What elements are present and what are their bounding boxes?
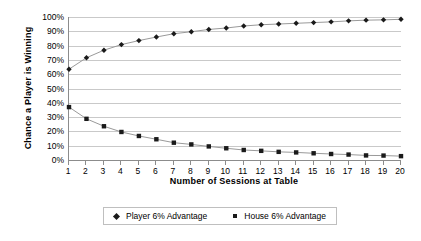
data-point: [293, 21, 298, 26]
data-point: [311, 151, 315, 155]
data-point: [172, 140, 176, 144]
y-axis-tick-label: 100%: [30, 13, 64, 21]
plot-area: [68, 17, 401, 161]
legend-entry[interactable]: House 6% Advantage: [233, 211, 326, 221]
x-axis-tickmark: [348, 161, 349, 165]
y-axis-tick-labels: 100%90%80%70%60%50%40%30%20%10%0%: [30, 17, 64, 160]
x-axis-tick-labels: 1234567891011121314151617181920: [68, 161, 400, 177]
data-point: [206, 27, 211, 32]
data-point: [346, 152, 350, 156]
y-axis-tick-label: 50%: [30, 85, 64, 93]
diamond-marker-icon: [113, 212, 120, 219]
data-point: [363, 17, 368, 22]
data-point: [171, 31, 176, 36]
y-axis-tick-label: 90%: [30, 27, 64, 35]
data-point: [398, 17, 403, 22]
data-point: [66, 66, 71, 71]
x-axis-tickmark: [173, 161, 174, 165]
x-axis-tickmark: [120, 161, 121, 165]
x-axis-tickmark: [190, 161, 191, 165]
y-axis-tick-label: 20%: [30, 127, 64, 135]
series-line: [69, 107, 401, 156]
data-point: [294, 150, 298, 154]
data-point: [276, 150, 280, 154]
x-axis-tickmark: [68, 161, 69, 165]
data-point: [346, 18, 351, 23]
data-point: [364, 153, 368, 157]
x-axis-tickmark: [365, 161, 366, 165]
data-point: [154, 137, 158, 141]
x-axis-tickmark: [243, 161, 244, 165]
legend-entry[interactable]: Player 6% Advantage: [114, 211, 207, 221]
chart-legend: Player 6% AdvantageHouse 6% Advantage: [103, 207, 337, 225]
series-line: [69, 19, 401, 69]
data-point: [381, 153, 385, 157]
data-point: [207, 144, 211, 148]
data-point: [84, 117, 88, 121]
data-point: [102, 124, 106, 128]
data-point: [276, 21, 281, 26]
data-point: [329, 152, 333, 156]
data-point: [84, 55, 89, 60]
x-axis-tickmark: [330, 161, 331, 165]
data-point: [259, 22, 264, 27]
legend-label: House 6% Advantage: [244, 211, 326, 221]
data-point: [259, 149, 263, 153]
data-point: [381, 17, 386, 22]
x-axis-tickmark: [260, 161, 261, 165]
x-axis-tickmark: [155, 161, 156, 165]
plot-svg: [69, 17, 401, 160]
data-point: [101, 47, 106, 52]
x-axis-tickmark: [383, 161, 384, 165]
data-point: [241, 23, 246, 28]
y-axis-tick-label: 70%: [30, 56, 64, 64]
x-axis-tickmark: [278, 161, 279, 165]
y-axis-tick-label: 60%: [30, 70, 64, 78]
data-point: [119, 130, 123, 134]
square-marker-icon: [233, 214, 237, 218]
chart-container: Chance a Player is Winning 100%90%80%70%…: [0, 0, 421, 241]
y-axis-tick-label: 40%: [30, 99, 64, 107]
data-point: [224, 25, 229, 30]
data-point: [154, 34, 159, 39]
data-point: [311, 20, 316, 25]
y-axis-tick-label: 80%: [30, 42, 64, 50]
x-axis-title: Number of Sessions at Table: [68, 176, 400, 186]
x-axis-tickmark: [313, 161, 314, 165]
data-point: [189, 142, 193, 146]
x-axis-tickmark: [138, 161, 139, 165]
x-axis-tickmark: [295, 161, 296, 165]
x-axis-tickmark: [400, 161, 401, 165]
legend-label: Player 6% Advantage: [126, 211, 207, 221]
data-point: [136, 38, 141, 43]
data-point: [242, 148, 246, 152]
data-point: [137, 134, 141, 138]
data-point: [189, 29, 194, 34]
data-point: [119, 42, 124, 47]
y-axis-tick-label: 10%: [30, 142, 64, 150]
x-axis-tickmark: [103, 161, 104, 165]
x-axis-tick-label: 20: [388, 166, 412, 176]
y-axis-tick-label: 30%: [30, 113, 64, 121]
y-axis-tick-label: 0%: [30, 156, 64, 164]
data-point: [399, 154, 403, 158]
data-point: [328, 19, 333, 24]
data-point: [224, 146, 228, 150]
data-point: [67, 105, 71, 109]
x-axis-tickmark: [225, 161, 226, 165]
x-axis-tickmark: [85, 161, 86, 165]
x-axis-tickmark: [208, 161, 209, 165]
